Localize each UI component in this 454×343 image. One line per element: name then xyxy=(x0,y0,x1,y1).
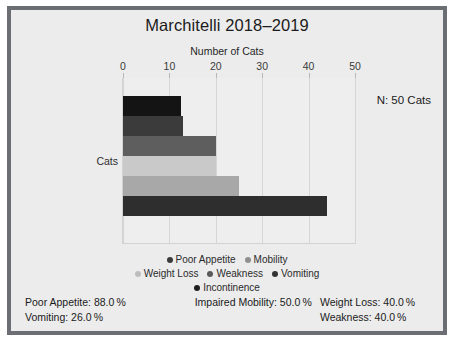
legend-item-poor-appetite[interactable]: Poor Appetite xyxy=(167,253,236,267)
stats-row-2: Vomiting: 26.0 % Weakness: 40.0 % xyxy=(25,310,429,325)
x-tick-label-0: 0 xyxy=(120,60,126,72)
legend-label: Poor Appetite xyxy=(176,253,236,267)
legend-item-weakness[interactable]: Weakness xyxy=(207,267,263,281)
bar-vomiting xyxy=(123,176,239,196)
stat-vomiting: Vomiting: 26.0 % xyxy=(25,310,195,325)
bar-weakness xyxy=(123,156,216,176)
stat-poor-appetite: Poor Appetite: 88.0 % xyxy=(25,295,195,310)
bar-mobility xyxy=(123,116,183,136)
plot-area: 01020304050 xyxy=(122,78,356,244)
stat-spacer xyxy=(195,310,320,325)
y-axis-category-label: Cats xyxy=(73,155,118,167)
chart-title: Marchitelli 2018–2019 xyxy=(11,16,443,35)
tick-mark-0 xyxy=(123,73,124,78)
legend-dot-icon xyxy=(135,271,141,277)
legend-label: Weakness xyxy=(216,267,263,281)
bar-incontinence xyxy=(123,196,327,216)
x-axis-title: Number of Cats xyxy=(11,45,443,57)
tick-mark-30 xyxy=(262,73,263,78)
legend-label: Mobility xyxy=(254,253,288,267)
x-tick-label-20: 20 xyxy=(210,60,222,72)
gridline-30 xyxy=(262,78,263,243)
legend-label: Weight Loss xyxy=(144,267,199,281)
gridline-50 xyxy=(355,78,356,243)
legend-item-weight-loss[interactable]: Weight Loss xyxy=(135,267,199,281)
legend-row-3: Incontinence xyxy=(11,281,443,295)
legend-dot-icon xyxy=(245,257,251,263)
tick-mark-20 xyxy=(216,73,217,78)
legend-dot-icon xyxy=(167,257,173,263)
x-tick-label-50: 50 xyxy=(349,60,361,72)
stats-footer: Poor Appetite: 88.0 % Impaired Mobility:… xyxy=(11,295,443,325)
legend-label: Incontinence xyxy=(203,281,260,295)
stat-impaired-mobility: Impaired Mobility: 50.0 % xyxy=(195,295,320,310)
legend-dot-icon xyxy=(194,285,200,291)
bar-poor-appetite xyxy=(123,96,181,116)
legend-item-incontinence[interactable]: Incontinence xyxy=(194,281,260,295)
stat-weight-loss: Weight Loss: 40.0 % xyxy=(320,295,429,310)
legend-dot-icon xyxy=(207,271,213,277)
stat-weakness: Weakness: 40.0 % xyxy=(320,310,429,325)
legend-label: Vomiting xyxy=(281,267,319,281)
sample-size-annotation: N: 50 Cats xyxy=(377,94,431,106)
tick-mark-40 xyxy=(309,73,310,78)
gridline-40 xyxy=(309,78,310,243)
stats-row-1: Poor Appetite: 88.0 % Impaired Mobility:… xyxy=(25,295,429,310)
x-tick-label-10: 10 xyxy=(164,60,176,72)
legend-item-vomiting[interactable]: Vomiting xyxy=(272,267,319,281)
x-tick-label-40: 40 xyxy=(303,60,315,72)
legend-dot-icon xyxy=(272,271,278,277)
gridline-20 xyxy=(216,78,217,243)
bar-weight-loss xyxy=(123,136,216,156)
tick-mark-10 xyxy=(169,73,170,78)
x-tick-label-30: 30 xyxy=(256,60,268,72)
legend-row-1: Poor AppetiteMobility xyxy=(11,253,443,267)
chart-legend: Poor AppetiteMobilityWeight LossWeakness… xyxy=(11,253,443,295)
tick-mark-50 xyxy=(355,73,356,78)
chart-figure: Marchitelli 2018–2019 Number of Cats Cat… xyxy=(7,6,447,335)
legend-item-mobility[interactable]: Mobility xyxy=(245,253,288,267)
legend-row-2: Weight LossWeaknessVomiting xyxy=(11,267,443,281)
